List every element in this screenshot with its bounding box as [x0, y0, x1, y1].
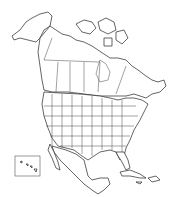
cuba [120, 170, 146, 178]
jamaica [136, 182, 142, 184]
hispaniola [148, 176, 160, 182]
canada [38, 26, 166, 98]
florida [116, 152, 130, 170]
hawaii-inset-frame [15, 156, 40, 176]
north-america-map [0, 0, 181, 197]
map-svg [0, 0, 181, 197]
